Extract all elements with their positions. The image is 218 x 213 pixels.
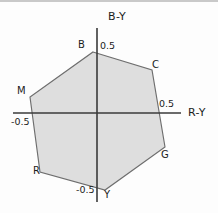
figure-root: B-Y R-Y 0.5 -0.5 0.5 -0.5 B C G Y R M bbox=[0, 0, 218, 213]
gamut-plot-svg bbox=[0, 0, 218, 213]
